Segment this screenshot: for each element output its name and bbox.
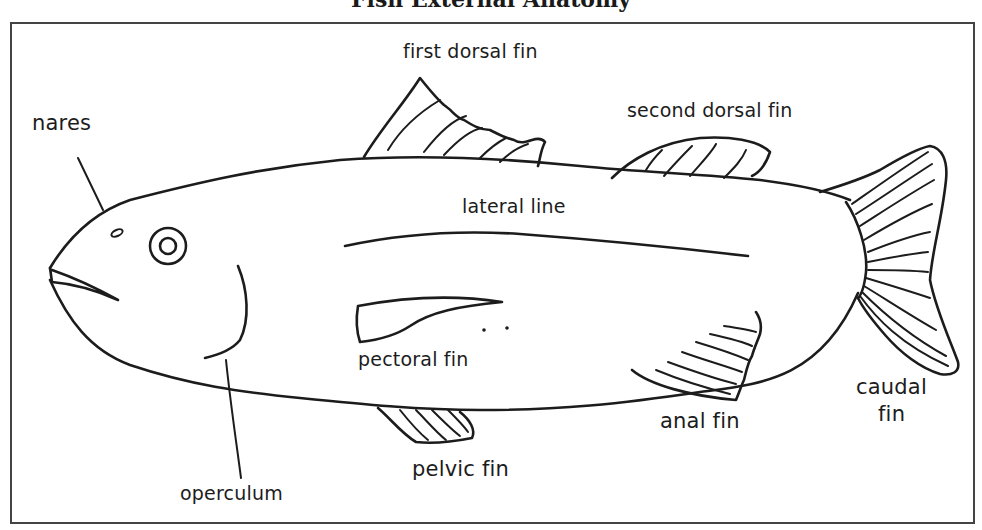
fish-body-top-outline <box>50 157 850 268</box>
pectoral-dot-2 <box>505 326 509 330</box>
fish-body-bottom-outline <box>50 280 858 410</box>
caudal-peduncle-curve <box>846 202 866 298</box>
nares-opening <box>110 228 123 239</box>
label-operculum: operculum <box>180 484 283 504</box>
label-pelvic-fin: pelvic fin <box>412 458 509 480</box>
label-pectoral-fin: pectoral fin <box>358 350 468 370</box>
pectoral-fin <box>357 298 502 342</box>
label-caudal-fin-line2: fin <box>878 403 905 425</box>
operculum-curve <box>205 266 247 358</box>
eye-pupil <box>160 238 176 254</box>
fish-illustration <box>0 0 982 530</box>
label-second-dorsal-fin: second dorsal fin <box>627 101 793 121</box>
label-caudal-fin-line1: caudal <box>856 376 927 398</box>
second-dorsal-fin <box>612 138 770 178</box>
label-anal-fin: anal fin <box>660 410 740 432</box>
lateral-line <box>345 233 748 257</box>
first-dorsal-fin-rays <box>388 100 528 162</box>
pectoral-dot-1 <box>482 328 486 332</box>
eye-outer <box>150 228 186 264</box>
label-first-dorsal-fin: first dorsal fin <box>403 42 538 62</box>
label-nares: nares <box>32 112 91 134</box>
caudal-fin <box>820 146 958 375</box>
pelvic-fin-rays <box>400 410 468 440</box>
operculum-leader-line <box>226 360 241 478</box>
mouth <box>50 268 118 300</box>
nares-leader-line <box>78 158 103 210</box>
label-lateral-line: lateral line <box>462 197 566 217</box>
